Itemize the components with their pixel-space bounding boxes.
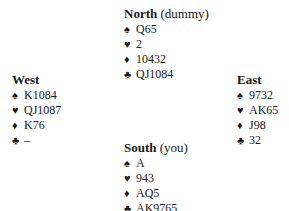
- north-diamonds-cards: 10432: [136, 52, 166, 67]
- east-diamonds: ♦J98: [237, 118, 278, 133]
- spade-icon: ♠: [124, 22, 136, 37]
- east-hearts-cards: AK65: [249, 103, 278, 118]
- north-hearts-cards: 2: [136, 37, 142, 52]
- west-spades-cards: K1084: [24, 88, 57, 103]
- north-title: North (dummy): [124, 6, 209, 22]
- spade-icon: ♠: [124, 156, 136, 171]
- west-diamonds-cards: K76: [24, 118, 45, 133]
- heart-icon: ♥: [124, 37, 136, 52]
- diamond-icon: ♦: [237, 118, 249, 133]
- north-hand: North (dummy) ♠Q65 ♥2 ♦10432 ♣QJ1084: [124, 6, 209, 82]
- north-clubs: ♣QJ1084: [124, 67, 209, 82]
- south-role: (you): [160, 140, 188, 155]
- north-name: North: [124, 6, 157, 21]
- club-icon: ♣: [12, 133, 24, 148]
- north-hearts: ♥2: [124, 37, 209, 52]
- north-spades: ♠Q65: [124, 22, 209, 37]
- diamond-icon: ♦: [124, 52, 136, 67]
- west-title: West: [12, 72, 61, 88]
- east-diamonds-cards: J98: [249, 118, 266, 133]
- west-clubs-cards: –: [24, 133, 30, 148]
- west-name: West: [12, 72, 39, 87]
- south-name: South: [124, 140, 157, 155]
- south-hearts-cards: 943: [136, 171, 154, 186]
- west-spades: ♠K1084: [12, 88, 61, 103]
- south-title: South (you): [124, 140, 188, 156]
- west-clubs: ♣–: [12, 133, 61, 148]
- east-hearts: ♥AK65: [237, 103, 278, 118]
- west-hearts: ♥QJ1087: [12, 103, 61, 118]
- east-hand: East ♠9732 ♥AK65 ♦J98 ♣32: [237, 72, 278, 148]
- spade-icon: ♠: [12, 88, 24, 103]
- east-name: East: [237, 72, 262, 87]
- spade-icon: ♠: [237, 88, 249, 103]
- club-icon: ♣: [124, 67, 136, 82]
- club-icon: ♣: [124, 201, 136, 211]
- north-clubs-cards: QJ1084: [136, 67, 173, 82]
- east-clubs: ♣32: [237, 133, 278, 148]
- heart-icon: ♥: [237, 103, 249, 118]
- west-hearts-cards: QJ1087: [24, 103, 61, 118]
- south-diamonds: ♦AQ5: [124, 186, 188, 201]
- north-spades-cards: Q65: [136, 22, 157, 37]
- south-hand: South (you) ♠A ♥943 ♦AQ5 ♣AK9765: [124, 140, 188, 211]
- south-clubs: ♣AK9765: [124, 201, 188, 211]
- west-diamonds: ♦K76: [12, 118, 61, 133]
- east-title: East: [237, 72, 278, 88]
- east-spades-cards: 9732: [249, 88, 273, 103]
- east-clubs-cards: 32: [249, 133, 261, 148]
- north-diamonds: ♦10432: [124, 52, 209, 67]
- heart-icon: ♥: [124, 171, 136, 186]
- diamond-icon: ♦: [12, 118, 24, 133]
- diamond-icon: ♦: [124, 186, 136, 201]
- south-diamonds-cards: AQ5: [136, 186, 159, 201]
- west-hand: West ♠K1084 ♥QJ1087 ♦K76 ♣–: [12, 72, 61, 148]
- east-spades: ♠9732: [237, 88, 278, 103]
- south-clubs-cards: AK9765: [136, 201, 177, 211]
- heart-icon: ♥: [12, 103, 24, 118]
- south-hearts: ♥943: [124, 171, 188, 186]
- south-spades: ♠A: [124, 156, 188, 171]
- club-icon: ♣: [237, 133, 249, 148]
- north-role: (dummy): [160, 6, 208, 21]
- south-spades-cards: A: [136, 156, 145, 171]
